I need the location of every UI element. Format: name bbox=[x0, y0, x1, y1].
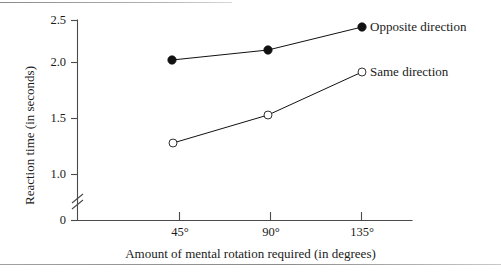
data-point-opposite-45 bbox=[168, 56, 176, 64]
series-label-opposite-direction: Opposite direction bbox=[370, 19, 466, 35]
series-line-same-direction bbox=[173, 72, 362, 143]
line-chart-plot bbox=[0, 0, 501, 274]
y-axis-title: Reaction time (in seconds) bbox=[22, 66, 38, 205]
y-tick-label-0: 0 bbox=[28, 214, 66, 227]
figure-container: 2.5 2.0 1.5 1.0 0 45° 90° 135° Amount of… bbox=[0, 0, 501, 274]
x-axis-title: Amount of mental rotation required (in d… bbox=[0, 246, 501, 262]
series-line-opposite-direction bbox=[172, 27, 362, 60]
y-tick-label-2-5: 2.5 bbox=[28, 14, 66, 27]
x-tick-label-45: 45° bbox=[171, 226, 189, 239]
data-point-same-135 bbox=[358, 68, 366, 76]
data-point-same-90 bbox=[264, 111, 272, 119]
data-point-opposite-135 bbox=[358, 23, 366, 31]
data-point-opposite-90 bbox=[264, 46, 272, 54]
data-point-same-45 bbox=[169, 139, 177, 147]
x-tick-label-135: 135° bbox=[350, 226, 374, 239]
series-label-same-direction: Same direction bbox=[370, 64, 448, 80]
x-tick-label-90: 90° bbox=[262, 226, 280, 239]
